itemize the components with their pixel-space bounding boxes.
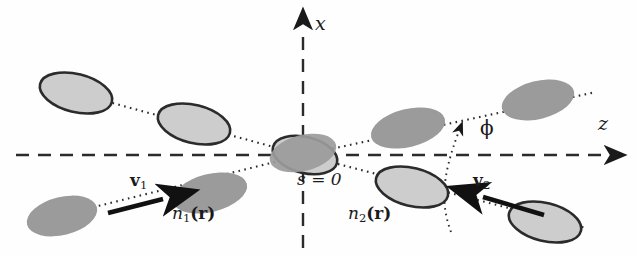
phi-angle-arc [444,131,459,232]
packet-ellipse [505,195,586,250]
density-label-n1-base: n [172,203,183,223]
density-label-n1-arg: (r) [190,203,215,223]
figure-canvas: x z ϕ s = 0 v1 v2 n1(r) n2(r) [0,0,636,256]
velocity-label-v2-base: v [473,170,483,190]
velocity-label-v1: v1 [130,172,147,192]
angle-label-phi: ϕ [480,118,494,138]
origin-label: s = 0 [297,171,342,188]
packet-ellipse [154,97,235,152]
axis-label-x: x [315,14,326,33]
density-label-n2-base: n [348,203,359,223]
diagram-svg [0,0,636,256]
packet-ellipse [36,66,117,121]
packet-ellipse [367,100,450,155]
packet-ellipse [22,189,101,243]
packet-ellipse [498,73,579,128]
velocity-label-v1-sub: 1 [140,178,147,192]
density-label-n1: n1(r) [172,205,215,225]
velocity-label-v2: v2 [473,172,490,192]
density-label-n2: n2(r) [348,205,391,225]
axis-label-z: z [598,114,608,133]
velocity-label-v1-base: v [130,170,140,190]
density-label-n2-arg: (r) [366,203,391,223]
velocity-label-v2-sub: 2 [483,178,490,192]
